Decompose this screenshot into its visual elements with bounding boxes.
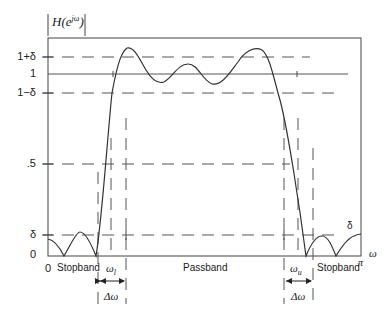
plot-frame [48, 38, 361, 256]
omega-l-label: ωl [106, 262, 116, 277]
stopband-left-label: Stopband [57, 262, 100, 273]
magnitude-response-curve [48, 48, 361, 256]
x-axis-omega: ω [369, 247, 377, 259]
x-label-zero: 0 [45, 262, 51, 274]
delta-omega-right-label: Δω [291, 290, 305, 302]
title-suffix: ) [79, 14, 83, 29]
delta-omega-left-label: Δω [104, 290, 118, 302]
chart-title: H(ejω) [52, 14, 84, 30]
y-label-half: .5 [6, 157, 36, 169]
y-label-delta: δ [6, 228, 36, 240]
title-prefix: H(e [52, 14, 72, 29]
omega-l-subscript: l [114, 268, 116, 277]
stopband-right-label: Stopband [317, 262, 360, 273]
x-label-pi: π [358, 257, 363, 268]
stopband-ripple-delta-label: δ [347, 220, 353, 231]
y-label-zero: 0 [6, 248, 36, 260]
y-label-one-plus-delta: 1+δ [6, 50, 36, 62]
y-label-one-minus-delta: 1−δ [6, 86, 36, 98]
passband-label: Passband [183, 262, 227, 273]
omega-l-symbol: ω [106, 262, 114, 274]
omega-u-subscript: u [298, 268, 302, 277]
omega-u-label: ωu [290, 262, 302, 277]
omega-u-symbol: ω [290, 262, 298, 274]
y-label-one: 1 [6, 67, 36, 79]
